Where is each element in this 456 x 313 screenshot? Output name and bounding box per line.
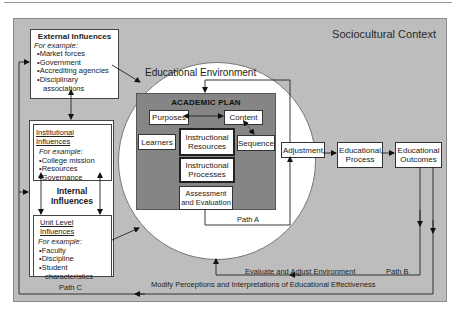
connector-arrows	[0, 0, 456, 313]
